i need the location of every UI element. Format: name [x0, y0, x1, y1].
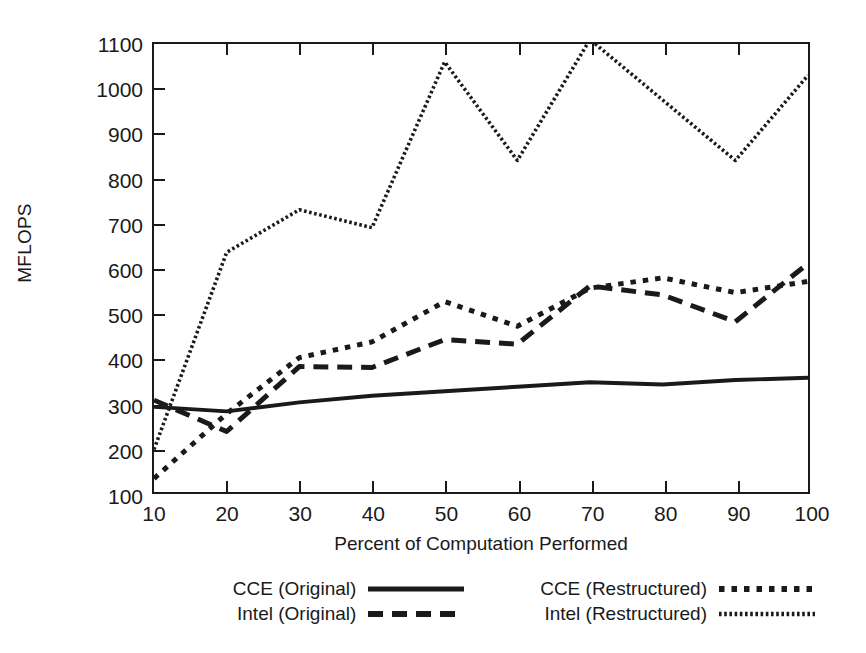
y-axis-tick-label: 900	[108, 124, 143, 145]
x-axis-tick-mark	[445, 481, 447, 492]
y-axis-tick-label: 200	[108, 440, 143, 461]
chart-legend: CCE (Original)CCE (Restructured)Intel (O…	[215, 578, 815, 625]
x-axis-tick-label: 70	[581, 503, 604, 524]
legend-entry[interactable]: Intel (Original)	[215, 603, 464, 625]
y-axis-title: MFLOPS	[14, 183, 36, 303]
x-axis-tick-label: 20	[215, 503, 238, 524]
legend-line-sample	[368, 582, 464, 596]
x-axis-tick-mark	[299, 481, 301, 492]
plot-lines	[154, 44, 808, 492]
x-axis-tick-mark-top	[226, 44, 228, 55]
legend-label: CCE (Original)	[233, 578, 357, 600]
legend-entry[interactable]: CCE (Original)	[215, 578, 464, 600]
x-axis-tick-mark-top	[445, 44, 447, 55]
x-axis-tick-mark	[738, 481, 740, 492]
y-axis-tick-label: 500	[108, 305, 143, 326]
x-axis-tick-mark-top	[592, 44, 594, 55]
x-axis-tick-mark	[665, 481, 667, 492]
y-axis-tick-label: 400	[108, 350, 143, 371]
x-axis-tick-label: 90	[727, 503, 750, 524]
y-axis-tick-label: 1100	[98, 34, 143, 55]
x-axis-tick-mark	[592, 481, 594, 492]
x-axis-tick-label: 30	[289, 503, 312, 524]
legend-line-sample	[719, 582, 815, 596]
legend-line-sample	[719, 607, 815, 621]
y-axis-tick-label: 1000	[96, 79, 143, 100]
series-line-cce-restructured	[154, 278, 808, 479]
x-axis-tick-mark	[226, 481, 228, 492]
y-axis-tick-label: 100	[108, 486, 143, 507]
y-axis-tick-mark	[154, 88, 165, 90]
plot-area: 1002003004005006007008009001000110010203…	[152, 42, 810, 494]
x-axis-tick-mark	[372, 481, 374, 492]
x-axis-tick-mark-top	[665, 44, 667, 55]
y-axis-tick-mark	[154, 359, 165, 361]
x-axis-tick-label: 50	[435, 503, 458, 524]
y-axis-tick-mark	[154, 179, 165, 181]
y-axis-tick-label: 600	[108, 260, 143, 281]
y-axis-tick-label: 300	[108, 395, 143, 416]
x-axis-tick-label: 80	[654, 503, 677, 524]
legend-label: CCE (Restructured)	[540, 578, 707, 600]
x-axis-tick-mark-top	[738, 44, 740, 55]
y-axis-tick-mark	[154, 224, 165, 226]
chart-figure: MFLOPS 100200300400500600700800900100011…	[0, 0, 866, 653]
legend-label: Intel (Original)	[237, 603, 356, 625]
y-axis-tick-mark	[154, 269, 165, 271]
x-axis-tick-label: 60	[508, 503, 531, 524]
x-axis-tick-label: 40	[362, 503, 385, 524]
y-axis-tick-label: 800	[108, 169, 143, 190]
x-axis-tick-label: 100	[794, 503, 829, 524]
x-axis-title: Percent of Computation Performed	[152, 533, 810, 555]
x-axis-tick-mark	[519, 481, 521, 492]
x-axis-tick-mark-top	[519, 44, 521, 55]
y-axis-tick-label: 700	[108, 214, 143, 235]
legend-entry[interactable]: CCE (Restructured)	[522, 578, 815, 600]
y-axis-tick-mark	[154, 314, 165, 316]
y-axis-tick-mark	[154, 450, 165, 452]
y-axis-tick-mark	[154, 133, 165, 135]
legend-label: Intel (Restructured)	[544, 603, 707, 625]
x-axis-tick-label: 10	[142, 503, 165, 524]
legend-line-sample	[368, 607, 464, 621]
y-axis-tick-mark	[154, 405, 165, 407]
x-axis-tick-mark-top	[372, 44, 374, 55]
x-axis-tick-mark-top	[299, 44, 301, 55]
legend-entry[interactable]: Intel (Restructured)	[522, 603, 815, 625]
